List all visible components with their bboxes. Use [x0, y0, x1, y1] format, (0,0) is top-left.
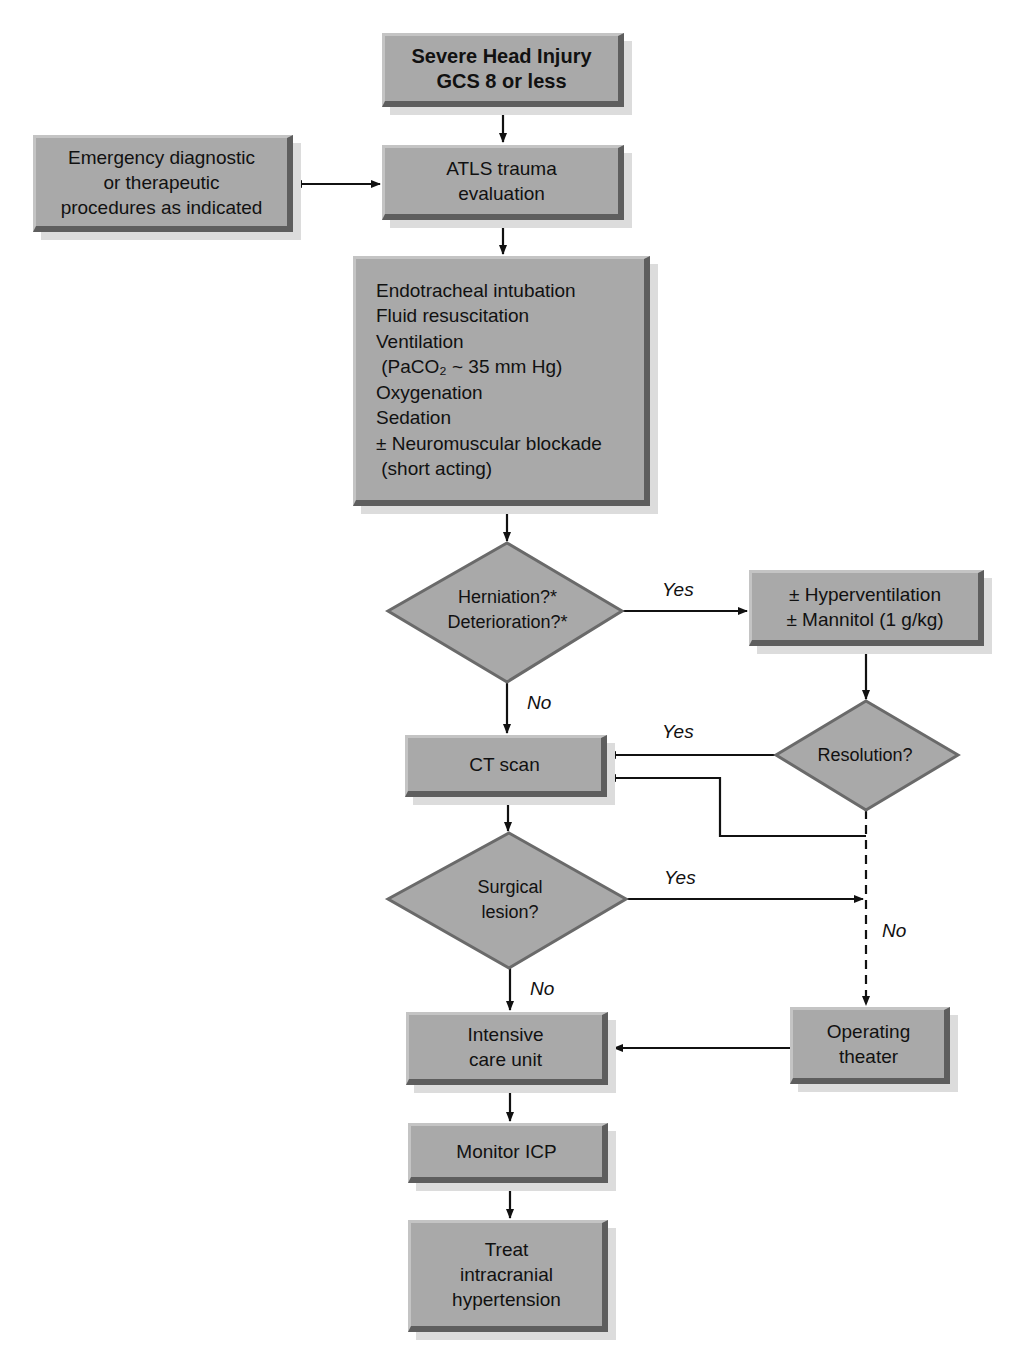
node-text: ± Mannitol (1 g/kg) — [786, 607, 943, 632]
node-atls-evaluation: ATLS traumaevaluation — [382, 145, 624, 220]
node-text: Severe Head Injury — [411, 44, 591, 69]
node-text: lesion? — [440, 900, 580, 925]
node-text: Sedation — [376, 405, 602, 431]
decision-resolution: Resolution? — [790, 743, 940, 768]
node-text: hypertension — [452, 1287, 561, 1312]
node-text: ATLS trauma — [446, 156, 557, 181]
node-text: Herniation?* — [410, 585, 605, 610]
decision-surgical-lesion: Surgical lesion? — [440, 875, 580, 925]
node-text: Endotracheal intubation — [376, 278, 602, 304]
node-text: GCS 8 or less — [411, 69, 591, 94]
node-text: or therapeutic — [61, 170, 263, 195]
node-text: Emergency diagnostic — [61, 145, 263, 170]
edge-label-herniation-yes: Yes — [662, 579, 694, 601]
edge-label-herniation-no: No — [527, 692, 551, 714]
node-text: Oxygenation — [376, 380, 602, 406]
node-text: Fluid resuscitation — [376, 303, 602, 329]
node-emergency-procedures: Emergency diagnosticor therapeuticproced… — [33, 135, 293, 232]
node-text: Ventilation — [376, 329, 602, 355]
node-text: (PaCO₂ ~ 35 mm Hg) — [376, 354, 602, 380]
node-intensive-care-unit: Intensivecare unit — [406, 1012, 608, 1085]
node-text: Surgical — [440, 875, 580, 900]
node-text: Monitor ICP — [456, 1139, 556, 1164]
edge-label-resolution-yes: Yes — [662, 721, 694, 743]
node-hyperventilation-mannitol: ± Hyperventilation± Mannitol (1 g/kg) — [749, 570, 984, 646]
node-text: CT scan — [469, 752, 539, 777]
node-text: care unit — [467, 1047, 543, 1072]
node-text: Deterioration?* — [410, 610, 605, 635]
node-monitor-icp: Monitor ICP — [408, 1123, 608, 1183]
node-operating-theater: Operatingtheater — [790, 1007, 950, 1084]
node-text: evaluation — [446, 181, 557, 206]
node-text: ± Neuromuscular blockade — [376, 431, 602, 457]
node-ct-scan: CT scan — [405, 735, 607, 797]
edge-label-surgical-yes: Yes — [664, 867, 696, 889]
node-treat-intracranial-hypertension: Treatintracranialhypertension — [408, 1220, 608, 1332]
node-text: procedures as indicated — [61, 195, 263, 220]
node-text: theater — [827, 1044, 910, 1069]
node-resuscitation: Endotracheal intubation Fluid resuscitat… — [353, 256, 650, 506]
node-text: Treat — [452, 1237, 561, 1262]
node-text: Operating — [827, 1019, 910, 1044]
node-text: Intensive — [467, 1022, 543, 1047]
edge-label-resolution-no: No — [882, 920, 906, 942]
node-text: (short acting) — [376, 456, 602, 482]
decision-herniation: Herniation?* Deterioration?* — [410, 585, 605, 635]
node-text: ± Hyperventilation — [786, 582, 943, 607]
node-text: intracranial — [452, 1262, 561, 1287]
node-text: Resolution? — [790, 743, 940, 768]
edge-label-surgical-no: No — [530, 978, 554, 1000]
node-severe-head-injury: Severe Head InjuryGCS 8 or less — [382, 33, 624, 107]
